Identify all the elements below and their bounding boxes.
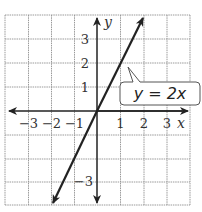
x-axis-label: x: [177, 115, 185, 131]
y-axis-label: y: [103, 14, 113, 30]
x-tick-label: −3: [19, 116, 38, 131]
x-tick-label: 1: [116, 116, 124, 131]
coordinate-plane: −3 −2 −1 1 2 3 x 3 2 1 −3 y y = 2x: [0, 0, 202, 212]
y-tick-label: 1: [81, 80, 89, 95]
x-tick-label: −1: [65, 116, 84, 131]
equation-label: y = 2x: [133, 84, 187, 103]
x-tick-label: 3: [163, 116, 171, 131]
equation-callout: y = 2x: [120, 67, 200, 105]
y-tick-label: −3: [74, 174, 93, 189]
x-tick-label: −2: [42, 116, 61, 131]
x-tick-label: 2: [140, 116, 148, 131]
y-tick-label: 3: [81, 32, 89, 47]
y-tick-label: 2: [81, 56, 89, 71]
